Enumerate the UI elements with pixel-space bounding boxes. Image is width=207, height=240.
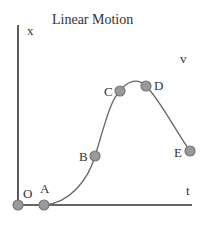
x-axis-label: t [186, 184, 190, 197]
y-axis-label: x [27, 24, 34, 37]
point-b [90, 151, 100, 161]
point-d-label: D [154, 79, 163, 92]
point-a-label: A [40, 182, 49, 195]
point-o [13, 200, 23, 210]
point-e [185, 146, 195, 156]
point-e-label: E [174, 146, 182, 159]
point-o-label: O [23, 187, 32, 200]
v-label: v [180, 52, 187, 65]
point-c-label: C [104, 85, 113, 98]
point-c [115, 86, 125, 96]
point-b-label: B [79, 150, 88, 163]
point-d [141, 81, 151, 91]
point-a [39, 200, 49, 210]
